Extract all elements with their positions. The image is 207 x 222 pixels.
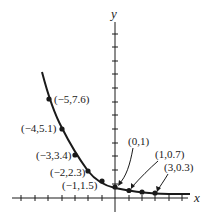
label-point-neg3: (−3,3.4) — [36, 149, 72, 162]
y-axis-label: y — [109, 6, 117, 21]
x-axis — [12, 195, 188, 201]
point-1 — [126, 188, 131, 193]
arrowhead-icon — [118, 180, 123, 186]
y-axis — [112, 22, 118, 212]
point-neg4 — [59, 126, 64, 131]
label-point-neg4: (−4,5.1) — [21, 122, 57, 135]
point-neg2 — [85, 168, 90, 173]
point-3 — [152, 190, 157, 195]
label-point-neg5: (−5,7.6) — [54, 93, 90, 106]
point-neg3 — [72, 152, 77, 157]
point-neg5 — [46, 96, 51, 101]
exponential-curve-chart: x y (−5,7.6) (−4,5.1) (−3,3.4) (−2,2.3 — [0, 0, 207, 222]
point-2 — [139, 189, 144, 194]
label-point-neg1: (−1,1.5) — [62, 179, 98, 192]
label-point-neg2: (−2,2.3) — [50, 166, 86, 179]
label-point-3: (3,0.3) — [164, 161, 194, 174]
x-axis-label: x — [193, 190, 200, 205]
point-neg1 — [99, 178, 104, 183]
label-point-0: (0,1) — [128, 135, 149, 148]
label-point-1: (1,0.7) — [155, 148, 185, 161]
point-0 — [112, 184, 117, 189]
